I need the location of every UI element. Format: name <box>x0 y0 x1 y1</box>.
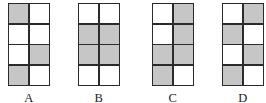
grid-cell-r4-c2 <box>30 66 49 85</box>
grid-cell-r3-c1 <box>79 45 98 64</box>
answer-option-a[interactable]: A <box>8 3 50 103</box>
option-label-a: A <box>24 92 33 103</box>
grid-cell-r2-c1 <box>79 25 98 44</box>
grid-cell-r4-c2 <box>244 66 263 85</box>
grid-cell-r3-c1 <box>9 45 28 64</box>
grid-cell-r2-c1 <box>153 25 172 44</box>
option-grid-b <box>78 3 120 86</box>
grid-cell-r3-c2 <box>244 45 263 64</box>
grid-cell-r1-c2 <box>244 4 263 23</box>
grid-cell-r2-c2 <box>100 25 119 44</box>
grid-cell-r1-c1 <box>9 4 28 23</box>
grid-cell-r4-c2 <box>174 66 193 85</box>
option-grid-a <box>8 3 50 86</box>
grid-cell-r3-c1 <box>223 45 242 64</box>
grid-cell-r1-c1 <box>153 4 172 23</box>
grid-cell-r4-c1 <box>223 66 242 85</box>
grid-cell-r1-c1 <box>79 4 98 23</box>
grid-cell-r3-c1 <box>153 45 172 64</box>
option-grid-c <box>152 3 194 86</box>
grid-cell-r4-c1 <box>79 66 98 85</box>
grid-cell-r1-c1 <box>223 4 242 23</box>
grid-cell-r1-c2 <box>174 4 193 23</box>
grid-cell-r1-c2 <box>100 4 119 23</box>
grid-cell-r2-c1 <box>9 25 28 44</box>
grid-cell-r4-c1 <box>153 66 172 85</box>
grid-cell-r4-c1 <box>9 66 28 85</box>
grid-cell-r2-c1 <box>223 25 242 44</box>
option-label-d: D <box>238 92 247 103</box>
grid-cell-r1-c2 <box>30 4 49 23</box>
option-label-b: B <box>95 92 104 103</box>
grid-cell-r2-c2 <box>30 25 49 44</box>
grid-cell-r3-c2 <box>30 45 49 64</box>
answer-option-d[interactable]: D <box>222 3 264 103</box>
grid-cell-r4-c2 <box>100 66 119 85</box>
option-label-c: C <box>169 92 178 103</box>
grid-cell-r2-c2 <box>174 25 193 44</box>
option-grid-d <box>222 3 264 86</box>
answer-option-b[interactable]: B <box>78 3 120 103</box>
answer-option-c[interactable]: C <box>152 3 194 103</box>
answer-options-figure: ABCD <box>0 0 266 103</box>
grid-cell-r3-c2 <box>100 45 119 64</box>
grid-cell-r2-c2 <box>244 25 263 44</box>
grid-cell-r3-c2 <box>174 45 193 64</box>
